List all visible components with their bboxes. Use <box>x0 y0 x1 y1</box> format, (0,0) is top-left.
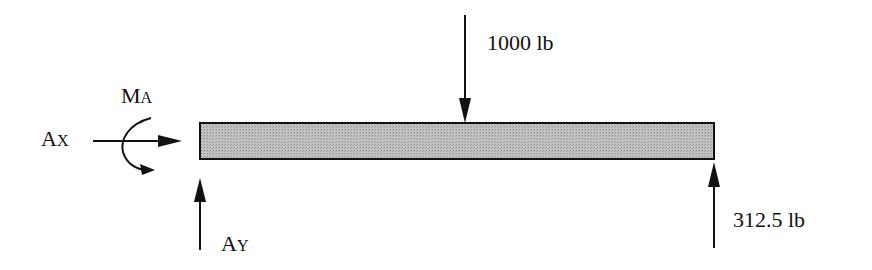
load-arrow-icon <box>459 15 471 123</box>
ax-label: AX <box>41 128 68 150</box>
ay-label-sub: Y <box>237 237 249 254</box>
ax-label-sub: X <box>57 132 69 149</box>
ay-label: AY <box>221 233 248 255</box>
beam <box>200 123 714 159</box>
ay-label-main: A <box>221 231 237 256</box>
moment-arrow-icon <box>122 118 155 175</box>
ay-arrow-icon <box>194 178 206 250</box>
moment-label-sub: A <box>141 89 153 106</box>
moment-label: MA <box>121 85 152 107</box>
ax-label-main: A <box>41 126 57 151</box>
reaction-arrow-icon <box>708 162 720 248</box>
reaction-right-label: 312.5 lb <box>733 209 805 231</box>
load-label: 1000 lb <box>487 32 554 54</box>
moment-label-main: M <box>121 83 141 108</box>
ax-arrow-icon <box>93 135 182 147</box>
